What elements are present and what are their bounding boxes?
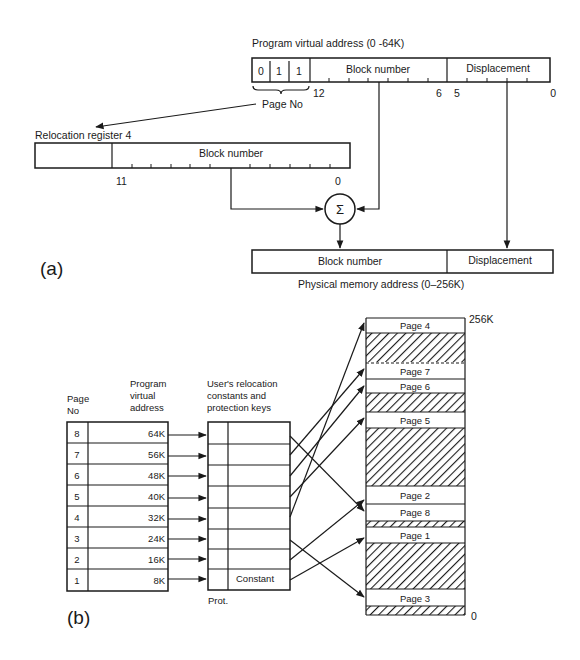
relocation-register-title: Relocation register 4 bbox=[35, 129, 131, 141]
page-no-arrow bbox=[96, 104, 256, 127]
prot-label: Prot. bbox=[208, 595, 228, 606]
bit-label-6: 6 bbox=[436, 87, 442, 99]
page-bit-1: 1 bbox=[276, 65, 282, 77]
relocation-table: Constant bbox=[208, 422, 290, 590]
bit-label-5: 5 bbox=[454, 87, 460, 99]
memory-page-5: Page 5 bbox=[400, 415, 430, 426]
page-no-label: Page No bbox=[262, 98, 303, 110]
free-region bbox=[366, 521, 465, 527]
memory-page-7: Page 7 bbox=[400, 366, 430, 377]
page-address: 64K bbox=[148, 428, 166, 439]
free-region bbox=[366, 428, 465, 486]
virtual-header-line3: address bbox=[130, 402, 164, 413]
physical-displacement-field: Displacement bbox=[468, 254, 532, 266]
virtual-displacement-field: Displacement bbox=[466, 62, 530, 74]
figure-b-label: (b) bbox=[67, 607, 90, 628]
memory-page-3: Page 3 bbox=[400, 593, 430, 604]
page-address: 32K bbox=[148, 512, 166, 523]
figure-a-label: (a) bbox=[40, 258, 63, 279]
free-region bbox=[366, 333, 465, 362]
page-address: 40K bbox=[148, 491, 166, 502]
figure-b: Page No Program virtual address User's r… bbox=[67, 313, 494, 628]
memory-page-1: Page 1 bbox=[400, 530, 430, 541]
page-address: 24K bbox=[148, 533, 166, 544]
page-number: 5 bbox=[74, 491, 79, 502]
page-no-brace bbox=[253, 86, 309, 94]
virtual-header-line1: Program bbox=[130, 378, 167, 389]
page-address: 56K bbox=[148, 449, 166, 460]
memory-top-label: 256K bbox=[469, 313, 494, 325]
page-table: 8 64K 7 56K 6 48K 5 40K 4 32K 3 24K bbox=[67, 422, 168, 591]
page-number: 1 bbox=[74, 575, 79, 586]
page-address: 8K bbox=[153, 575, 165, 586]
bit-label-12: 12 bbox=[313, 87, 325, 99]
virtual-address-register: 0 1 1 Block number Displacement bbox=[252, 58, 550, 82]
memory-page-8: Page 8 bbox=[400, 507, 430, 518]
page-to-relocation-arrows bbox=[168, 435, 206, 579]
page-bit-0: 0 bbox=[258, 65, 264, 77]
bit-label-0: 0 bbox=[550, 87, 556, 99]
virtual-header-line2: virtual bbox=[130, 390, 155, 401]
free-region bbox=[366, 606, 465, 615]
reloc-bit-label-11: 11 bbox=[116, 175, 127, 187]
figure-a: Program virtual address (0 -64K) 0 1 1 B… bbox=[35, 37, 556, 290]
physical-address-register: Block number Displacement bbox=[252, 250, 553, 273]
physical-memory-column: Page 4 Page 7 Page 6 Page 5 Page 2 Page … bbox=[366, 318, 465, 615]
relocation-to-adder-line bbox=[231, 168, 323, 209]
relocation-header-line1: User's relocation bbox=[207, 378, 277, 389]
virtual-address-title: Program virtual address (0 -64K) bbox=[252, 37, 404, 49]
page-number: 7 bbox=[74, 449, 79, 460]
page-number: 3 bbox=[74, 533, 79, 544]
memory-page-6: Page 6 bbox=[400, 381, 430, 392]
relocation-register: Block number bbox=[35, 143, 350, 168]
page-no-header-line2: No bbox=[67, 405, 79, 416]
page-no-header-line1: Page bbox=[67, 393, 89, 404]
constant-label: Constant bbox=[236, 573, 274, 584]
page-number: 4 bbox=[74, 512, 79, 523]
reloc-bit-label-0: 0 bbox=[335, 175, 341, 187]
free-region bbox=[366, 543, 465, 589]
physical-address-title: Physical memory address (0–256K) bbox=[298, 278, 464, 290]
page-number: 2 bbox=[74, 554, 79, 565]
relocation-header-line3: protection keys bbox=[207, 402, 271, 413]
free-region bbox=[366, 393, 465, 412]
virtual-block-field: Block number bbox=[346, 63, 411, 75]
memory-mapping-diagram: Program virtual address (0 -64K) 0 1 1 B… bbox=[0, 0, 580, 660]
physical-block-field: Block number bbox=[318, 255, 383, 267]
relocation-to-memory-arrows bbox=[290, 323, 364, 597]
page-number: 8 bbox=[74, 428, 79, 439]
page-bit-2: 1 bbox=[296, 65, 302, 77]
sigma-symbol: Σ bbox=[336, 202, 344, 217]
page-address: 16K bbox=[148, 554, 166, 565]
virtual-block-to-adder-line bbox=[357, 82, 379, 209]
page-address: 48K bbox=[148, 470, 166, 481]
page-number: 6 bbox=[74, 470, 79, 481]
memory-page-4: Page 4 bbox=[400, 320, 430, 331]
memory-page-2: Page 2 bbox=[400, 490, 430, 501]
relocation-block-field: Block number bbox=[199, 147, 264, 159]
relocation-header-line2: constants and bbox=[207, 390, 266, 401]
memory-bottom-label: 0 bbox=[471, 610, 477, 622]
